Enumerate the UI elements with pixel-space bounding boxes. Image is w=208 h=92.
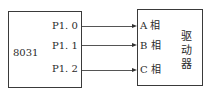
port-label-p1-1: P1. 1 xyxy=(52,40,78,52)
input-label-b-phase: B 相 xyxy=(140,40,161,52)
port-label-p1-0: P1. 0 xyxy=(52,20,78,32)
driver-label-char-1: 驱 xyxy=(180,30,192,44)
signal-line-c xyxy=(82,70,134,71)
mcu-label: 8031 xyxy=(13,47,38,59)
input-label-c-phase: C 相 xyxy=(140,64,161,76)
driver-label-char-3: 器 xyxy=(180,58,192,72)
driver-label-char-2: 动 xyxy=(180,44,192,58)
signal-line-a xyxy=(82,26,134,27)
signal-line-b xyxy=(82,45,134,46)
input-label-a-phase: A 相 xyxy=(140,20,160,32)
port-label-p1-2: P1. 2 xyxy=(52,63,78,75)
